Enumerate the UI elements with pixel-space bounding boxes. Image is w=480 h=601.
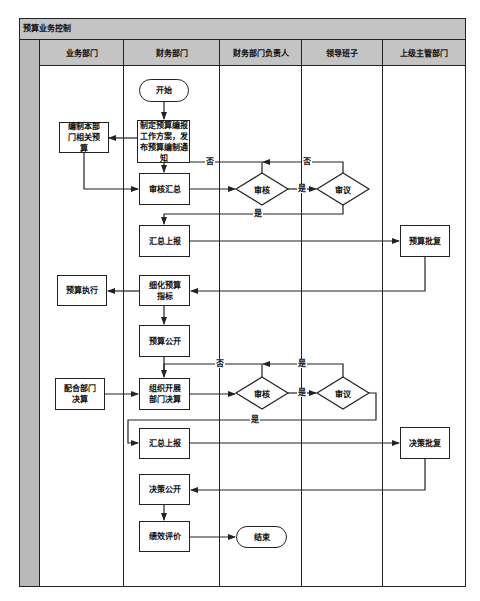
submit-summary-node-2: 汇总上报: [139, 428, 190, 459]
budget-publish-node: 预算公开: [139, 325, 190, 357]
end-node: 结束: [236, 526, 287, 548]
submit-summary-node-1: 汇总上报: [139, 225, 190, 257]
dept-budget-node: 编制本部门相关预算: [59, 122, 109, 153]
deliberate-diamond-1-label: 审议: [317, 173, 369, 205]
edge-label-yes-deliberate-2-top: 是: [297, 359, 307, 368]
budget-approval-node: 预算批复: [400, 225, 450, 257]
start-node: 开始: [139, 79, 189, 102]
organize-final-node: 组织开展部门决算: [139, 378, 190, 410]
refine-budget-node: 细化预算指标: [139, 275, 190, 306]
edge-label-yes-deliberate-2-bottom: 是: [250, 415, 260, 424]
edge-label-no-review-2: 否: [215, 359, 225, 368]
edge-label-yes-deliberate-1: 是: [253, 209, 263, 218]
make-plan-node: 制定预算编报工作方案，发布预算编制通知: [137, 120, 190, 163]
edge-label-yes-review-2: 是: [297, 388, 307, 397]
review-diamond-1-label: 审核: [236, 173, 288, 205]
performance-eval-node: 绩效评价: [139, 521, 190, 552]
deliberate-diamond-2-label: 审议: [317, 377, 369, 409]
edge-label-no-review-1: 否: [205, 157, 215, 166]
final-publish-node: 决策公开: [139, 474, 190, 505]
coordinate-final-node: 配合部门决算: [55, 378, 105, 410]
final-approval-node: 决策批复: [400, 427, 450, 459]
review-summary-node: 审核汇总: [139, 173, 190, 205]
edge-label-yes-review-1: 是: [297, 184, 307, 193]
edge-label-no-deliberate-1: 否: [302, 157, 312, 166]
budget-execution-node: 预算执行: [57, 275, 107, 306]
review-diamond-2-label: 审核: [236, 377, 288, 409]
